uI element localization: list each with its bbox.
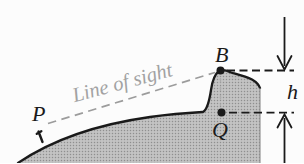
down-arrow bbox=[278, 17, 292, 70]
height-label: h bbox=[287, 79, 298, 104]
point-q-dot bbox=[218, 109, 226, 117]
up-arrow bbox=[278, 115, 292, 164]
point-p-label: P bbox=[31, 101, 45, 126]
point-q-label: Q bbox=[212, 117, 228, 142]
point-b-dot bbox=[217, 67, 225, 75]
diagram-canvas: Line of sight P B Q h bbox=[0, 0, 304, 163]
point-b-label: B bbox=[215, 42, 228, 67]
line-of-sight-diagram: Line of sight P B Q h bbox=[0, 0, 304, 163]
p-tick-mark bbox=[37, 131, 43, 142]
